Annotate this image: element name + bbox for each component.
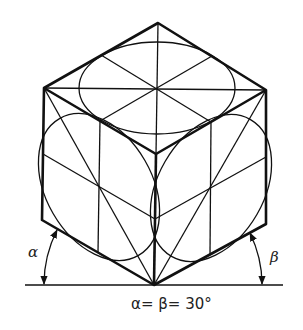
top-face	[44, 42, 266, 134]
beta-angle-arc	[250, 233, 262, 284]
alpha-angle-arc	[44, 230, 57, 284]
beta-label: β	[269, 248, 279, 266]
left-face	[14, 88, 185, 285]
isometric-cube-diagram: α β α= β= 30°	[0, 0, 303, 330]
cube-outline	[42, 23, 266, 285]
alpha-label: α	[28, 243, 38, 261]
angle-caption: α= β= 30°	[131, 295, 212, 313]
